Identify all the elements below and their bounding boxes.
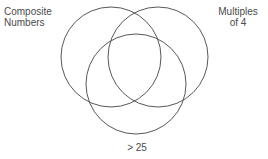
venn-label-greater-than-25: > 25 (112, 143, 162, 154)
venn-diagram-page: Composite Numbers Multiples of 4 > 25 (0, 0, 268, 159)
venn-label-multiples-of-4: Multiples of 4 (209, 7, 267, 28)
venn-circle-composite-numbers (61, 7, 161, 107)
venn-label-composite-numbers: Composite Numbers (4, 7, 66, 28)
venn-circle-multiples-of-4 (108, 7, 208, 107)
venn-circle-greater-than-25 (86, 34, 186, 134)
